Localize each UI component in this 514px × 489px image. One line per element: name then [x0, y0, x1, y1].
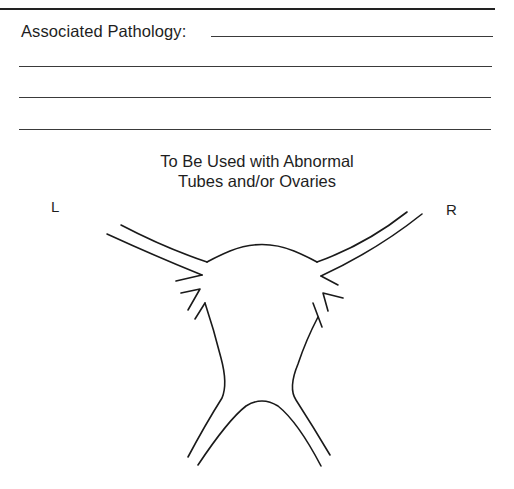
uterus-diagram[interactable] [0, 0, 514, 489]
left-spike-3 [195, 303, 205, 319]
right-spike-1 [321, 276, 338, 285]
uterus-right-wall [292, 317, 330, 455]
left-tube-upper-line [121, 225, 207, 262]
right-tube-lower-line [321, 214, 422, 276]
left-spike-2 [181, 289, 200, 310]
uterine-fundus-line [207, 245, 317, 263]
right-spike-2 [323, 293, 343, 311]
left-spike-1 [176, 275, 202, 281]
